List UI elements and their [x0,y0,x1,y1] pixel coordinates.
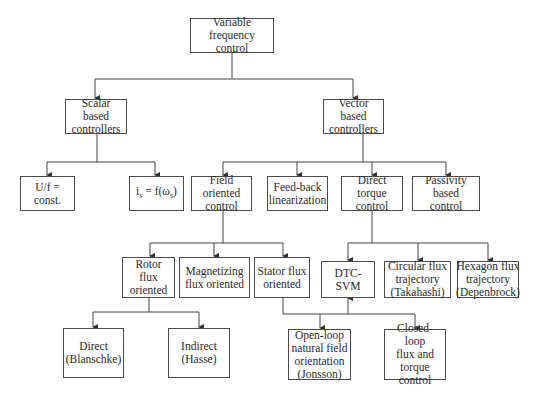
node-is-f-ws: is = f(ωs) [129,176,184,211]
node-stator-flux-oriented: Stator flux oriented [254,257,310,298]
node-field-oriented-control: Field oriented control [191,176,252,211]
node-hexagon-flux-trajectory: Hexagon flux trajectory (Depenbrock) [457,261,519,298]
node-label: is = f(ωs) [136,185,177,202]
formula-end: ) [173,185,177,197]
node-label: Field oriented control [194,174,249,213]
node-label: DTC-SVM [324,267,372,293]
node-label: Stator flux oriented [258,265,307,291]
node-label: Closed-loop flux and torque control [387,322,443,387]
node-label: U/f = const. [23,181,72,207]
diagram-canvas: Variable frequency control Scalar based … [0,0,537,396]
node-dtc-svm: DTC-SVM [321,261,375,298]
node-scalar-based-controllers: Scalar based controllers [65,99,127,134]
node-label: Scalar based controllers [68,97,124,136]
node-label: Vector based controllers [326,97,381,136]
node-label: Direct torque control [344,174,400,213]
node-label: Indirect (Hasse) [181,340,217,366]
node-label: Passivity based control [415,174,477,213]
formula-mid: = f(ω [142,185,169,197]
node-circular-flux-trajectory: Circular flux trajectory (Takahashi) [384,261,451,298]
node-passivity-based-control: Passivity based control [412,176,480,211]
node-direct-blanschke: Direct (Blanschke) [63,328,124,378]
node-closed-loop-flux-torque-control: Closed-loop flux and torque control [384,329,446,380]
node-feedback-linearization: Feed-back linearization [267,176,328,211]
node-label: Feed-back linearization [269,181,326,207]
node-label: Circular flux trajectory (Takahashi) [388,260,447,299]
node-variable-frequency-control: Variable frequency control [190,18,274,53]
node-uf-const: U/f = const. [20,176,75,211]
node-label: Magnetizing flux oriented [185,265,244,291]
node-direct-torque-control: Direct torque control [341,176,403,211]
node-label: Rotor flux oriented [125,258,172,297]
node-rotor-flux-oriented: Rotor flux oriented [122,257,175,298]
node-vector-based-controllers: Vector based controllers [323,99,384,134]
node-open-loop-natural-field-orientation: Open-loop natural field orientation (Jon… [288,329,351,380]
node-label: Direct (Blanschke) [66,340,122,366]
node-label: Open-loop natural field orientation (Jon… [292,329,348,381]
node-magnetizing-flux-oriented: Magnetizing flux oriented [179,257,250,298]
node-indirect-hasse: Indirect (Hasse) [168,328,230,378]
node-label: Hexagon flux trajectory (Depenbrock) [456,260,520,299]
node-label: Variable frequency control [193,16,271,55]
